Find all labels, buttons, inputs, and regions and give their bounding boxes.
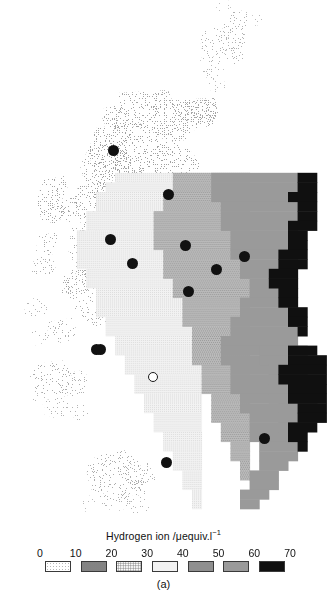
legend-swatch-60-70 <box>259 561 285 572</box>
site-marker-filled <box>91 344 102 355</box>
legend-scale: 010203040506070 <box>40 547 290 577</box>
figure-panel: Hydrogen ion /μequiv.l−1 010203040506070… <box>0 0 327 595</box>
legend-swatch-0-10 <box>45 561 71 572</box>
site-marker-filled <box>239 251 250 262</box>
legend-tick-60: 60 <box>248 547 260 559</box>
legend-tick-50: 50 <box>213 547 225 559</box>
site-marker-filled <box>163 189 174 200</box>
legend-title-text: Hydrogen ion /μequiv.l <box>106 530 212 542</box>
site-marker-filled <box>183 286 194 297</box>
legend-swatch-30-40 <box>152 561 178 572</box>
site-marker-filled <box>108 145 119 156</box>
legend-swatch-10-20 <box>81 561 107 572</box>
site-marker-filled <box>211 264 222 275</box>
legend-swatch-50-60 <box>223 561 249 572</box>
legend-title: Hydrogen ion /μequiv.l−1 <box>0 528 327 542</box>
legend-tick-40: 40 <box>177 547 189 559</box>
legend-title-exponent: −1 <box>212 528 221 537</box>
legend-tick-0: 0 <box>37 547 43 559</box>
site-marker-filled <box>161 457 172 468</box>
site-marker-filled <box>105 234 116 245</box>
legend-swatch-40-50 <box>188 561 214 572</box>
map-canvas <box>0 0 327 520</box>
legend-tick-30: 30 <box>141 547 153 559</box>
site-marker-filled <box>259 433 270 444</box>
legend-tick-10: 10 <box>70 547 82 559</box>
legend-tick-70: 70 <box>284 547 296 559</box>
map-legend: Hydrogen ion /μequiv.l−1 010203040506070… <box>0 520 327 595</box>
site-marker-filled <box>127 258 138 269</box>
figure-caption: (a) <box>0 578 327 590</box>
legend-swatch-20-30 <box>116 561 142 572</box>
site-marker-filled <box>180 240 191 251</box>
legend-tick-20: 20 <box>106 547 118 559</box>
choropleth-map <box>0 0 327 520</box>
site-marker-open <box>148 372 158 382</box>
